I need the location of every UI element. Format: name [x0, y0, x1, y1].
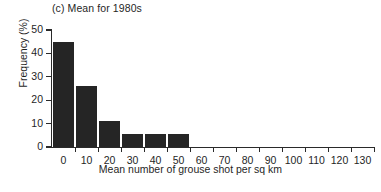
y-axis-label: Frequency (%) [17, 0, 29, 108]
bar [122, 134, 143, 147]
y-tick-label: 0 [37, 140, 43, 152]
x-tick-mark [144, 147, 145, 152]
y-tick-mark [46, 100, 52, 101]
x-tick-mark [351, 147, 352, 152]
bar [53, 42, 74, 147]
x-tick-mark [305, 147, 306, 152]
y-tick-label: 30 [31, 70, 43, 82]
plot-area: 01020304050 0102030405060708090100110120… [52, 30, 374, 147]
histogram-figure: (c) Mean for 1980s Frequency (%) 0102030… [0, 0, 381, 192]
x-tick-mark [98, 147, 99, 152]
y-tick-label: 40 [31, 46, 43, 58]
y-tick-mark [46, 146, 52, 147]
x-tick-mark [190, 147, 191, 152]
x-tick-mark [213, 147, 214, 152]
x-axis-label: Mean number of grouse shot per sq km [0, 163, 381, 175]
y-tick-mark [46, 76, 52, 77]
y-tick-mark [46, 53, 52, 54]
y-tick-label: 10 [31, 117, 43, 129]
bar [168, 134, 189, 147]
x-tick-mark [121, 147, 122, 152]
bar [76, 86, 97, 147]
x-tick-mark [259, 147, 260, 152]
y-tick-label: 50 [31, 23, 43, 35]
x-tick-mark [328, 147, 329, 152]
bar [99, 121, 120, 147]
x-tick-mark [167, 147, 168, 152]
x-tick-mark [374, 147, 375, 152]
x-tick-mark [282, 147, 283, 152]
y-axis-line [51, 30, 52, 147]
x-tick-mark [236, 147, 237, 152]
page-title: (c) Mean for 1980s [52, 2, 142, 14]
y-tick-mark [46, 123, 52, 124]
x-tick-mark [75, 147, 76, 152]
y-tick-mark [46, 29, 52, 30]
y-tick-label: 20 [31, 93, 43, 105]
bar [145, 134, 166, 147]
